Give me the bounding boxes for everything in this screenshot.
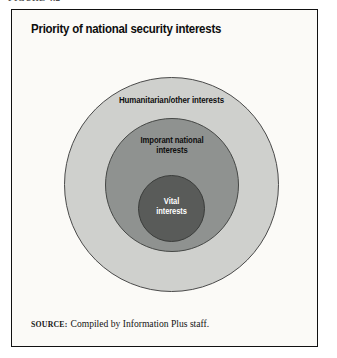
source-note-text: Compiled by Information Plus staff. [71, 318, 210, 329]
source-note-label: SOURCE: [31, 320, 68, 329]
source-note: SOURCE:Compiled by Information Plus staf… [31, 318, 209, 329]
figure-frame: Priority of national security interests … [11, 9, 318, 347]
ring-label-humanitarian-other-interests: Humanitarian/other interests [73, 95, 271, 105]
concentric-circles-diagram: Humanitarian/other interests Imporant na… [12, 10, 319, 348]
ring-label-important-national-interests: Imporant national interests [110, 136, 233, 156]
ring-label-vital-interests: Vital interests [141, 197, 203, 216]
figure-number-caption: FIGURE 4.2 [8, 0, 61, 2]
